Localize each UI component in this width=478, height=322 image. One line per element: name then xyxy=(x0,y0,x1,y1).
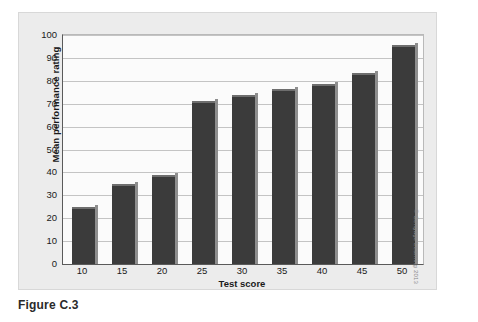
y-axis-tick-label: 90 xyxy=(31,51,57,62)
x-axis-tick-label: 45 xyxy=(342,265,382,276)
y-axis-tick-label: 100 xyxy=(31,29,57,40)
bar-slot xyxy=(223,35,263,264)
y-axis-tick-label: 60 xyxy=(31,120,57,131)
bar[interactable] xyxy=(152,175,175,264)
bar-side-highlight xyxy=(135,182,138,264)
x-axis-title: Test score xyxy=(62,278,422,289)
bar-slot xyxy=(143,35,183,264)
bar[interactable] xyxy=(392,45,415,264)
bar[interactable] xyxy=(192,101,215,264)
bar[interactable] xyxy=(112,184,135,264)
x-axis-tick-label: 10 xyxy=(62,265,102,276)
copyright-notice: © Cengage Learning 2013 xyxy=(413,209,419,319)
bar-slot xyxy=(303,35,343,264)
bar[interactable] xyxy=(272,89,295,264)
bar-top-highlight xyxy=(112,184,135,186)
bar-slot xyxy=(63,35,103,264)
x-axis-tick-label: 40 xyxy=(302,265,342,276)
bar-top-highlight xyxy=(232,95,255,97)
x-axis-tick-labels: 101520253035404550 xyxy=(62,265,422,276)
bar-slot xyxy=(343,35,383,264)
bar[interactable] xyxy=(312,84,335,264)
bar[interactable] xyxy=(352,73,375,264)
bar-side-highlight xyxy=(255,93,258,264)
bar-side-highlight xyxy=(175,173,178,264)
bar-side-highlight xyxy=(375,71,378,264)
x-axis-tick-label: 20 xyxy=(142,265,182,276)
bar-slot xyxy=(103,35,143,264)
bar-slot xyxy=(183,35,223,264)
y-axis-tick-label: 50 xyxy=(31,143,57,154)
bar-top-highlight xyxy=(352,73,375,75)
bar-side-highlight xyxy=(95,205,98,264)
figure-caption: Figure C.3 xyxy=(18,298,79,312)
bar-slot xyxy=(263,35,303,264)
y-axis-tick-label: 40 xyxy=(31,166,57,177)
x-axis-tick-label: 30 xyxy=(222,265,262,276)
x-axis-tick-label: 15 xyxy=(102,265,142,276)
figure-container: Mean performance rating 0102030405060708… xyxy=(0,0,478,322)
bar[interactable] xyxy=(72,207,95,264)
y-axis-tick-labels: 0102030405060708090100 xyxy=(31,34,57,263)
bar[interactable] xyxy=(232,95,255,264)
bar-series xyxy=(63,35,423,264)
y-axis-tick-label: 20 xyxy=(31,212,57,223)
bar-top-highlight xyxy=(272,89,295,91)
bar-side-highlight xyxy=(215,99,218,264)
bar-top-highlight xyxy=(312,84,335,86)
bar-top-highlight xyxy=(72,207,95,209)
x-axis-tick-label: 35 xyxy=(262,265,302,276)
bar-side-highlight xyxy=(295,87,298,264)
plot-area xyxy=(62,34,424,265)
y-axis-tick-label: 10 xyxy=(31,235,57,246)
bar-top-highlight xyxy=(192,101,215,103)
bar-top-highlight xyxy=(152,175,175,177)
y-axis-tick-label: 0 xyxy=(31,258,57,269)
bar-side-highlight xyxy=(335,82,338,264)
y-axis-tick-label: 30 xyxy=(31,189,57,200)
y-axis-tick-label: 70 xyxy=(31,97,57,108)
chart-panel: Mean performance rating 0102030405060708… xyxy=(18,12,437,290)
y-axis-tick-label: 80 xyxy=(31,74,57,85)
x-axis-tick-label: 25 xyxy=(182,265,222,276)
bar-top-highlight xyxy=(392,45,415,47)
